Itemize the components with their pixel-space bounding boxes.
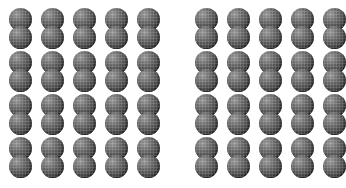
object-pair — [323, 94, 346, 135]
object-pair — [137, 51, 160, 92]
object-pair — [259, 137, 282, 178]
sphere-icon — [259, 155, 282, 178]
object-grid-left — [9, 8, 169, 180]
object-pair — [259, 51, 282, 92]
object-pair — [105, 51, 128, 92]
object-pair — [291, 8, 314, 49]
sphere-icon — [41, 69, 64, 92]
sphere-icon — [73, 26, 96, 49]
object-pair — [41, 94, 64, 135]
object-pair — [227, 94, 250, 135]
object-pair — [9, 137, 32, 178]
object-pair — [73, 94, 96, 135]
object-pair — [195, 51, 218, 92]
object-pair — [323, 8, 346, 49]
object-pair — [9, 51, 32, 92]
sphere-icon — [323, 112, 346, 135]
sphere-icon — [259, 26, 282, 49]
sphere-icon — [9, 69, 32, 92]
sphere-icon — [105, 112, 128, 135]
object-pair — [137, 94, 160, 135]
illustration-canvas — [0, 0, 346, 188]
sphere-icon — [41, 112, 64, 135]
sphere-icon — [137, 69, 160, 92]
object-pair — [137, 8, 160, 49]
sphere-icon — [41, 26, 64, 49]
object-pair — [259, 8, 282, 49]
sphere-icon — [137, 155, 160, 178]
object-pair — [195, 137, 218, 178]
object-pair — [259, 94, 282, 135]
sphere-icon — [9, 155, 32, 178]
sphere-icon — [73, 112, 96, 135]
sphere-icon — [227, 69, 250, 92]
sphere-icon — [291, 69, 314, 92]
sphere-icon — [227, 26, 250, 49]
object-pair — [41, 137, 64, 178]
object-pair — [105, 8, 128, 49]
sphere-icon — [137, 112, 160, 135]
object-pair — [323, 137, 346, 178]
object-pair — [227, 137, 250, 178]
object-pair — [73, 137, 96, 178]
sphere-icon — [137, 26, 160, 49]
sphere-icon — [227, 155, 250, 178]
object-pair — [137, 137, 160, 178]
sphere-icon — [73, 155, 96, 178]
sphere-icon — [195, 155, 218, 178]
object-pair — [41, 51, 64, 92]
object-pair — [291, 137, 314, 178]
sphere-icon — [105, 155, 128, 178]
sphere-icon — [323, 155, 346, 178]
sphere-icon — [105, 69, 128, 92]
sphere-icon — [291, 112, 314, 135]
object-pair — [41, 8, 64, 49]
object-pair — [105, 137, 128, 178]
object-pair — [227, 8, 250, 49]
sphere-icon — [195, 26, 218, 49]
object-pair — [9, 8, 32, 49]
sphere-icon — [323, 26, 346, 49]
sphere-icon — [259, 112, 282, 135]
object-pair — [105, 94, 128, 135]
object-grid-right — [195, 8, 346, 180]
object-pair — [323, 51, 346, 92]
sphere-icon — [227, 112, 250, 135]
sphere-icon — [41, 155, 64, 178]
sphere-icon — [73, 69, 96, 92]
sphere-icon — [291, 155, 314, 178]
object-pair — [73, 51, 96, 92]
object-pair — [195, 8, 218, 49]
object-pair — [291, 51, 314, 92]
sphere-icon — [195, 69, 218, 92]
object-pair — [227, 51, 250, 92]
sphere-icon — [195, 112, 218, 135]
object-pair — [9, 94, 32, 135]
sphere-icon — [9, 26, 32, 49]
sphere-icon — [291, 26, 314, 49]
sphere-icon — [323, 69, 346, 92]
object-pair — [291, 94, 314, 135]
sphere-icon — [259, 69, 282, 92]
sphere-icon — [9, 112, 32, 135]
object-pair — [73, 8, 96, 49]
object-pair — [195, 94, 218, 135]
sphere-icon — [105, 26, 128, 49]
